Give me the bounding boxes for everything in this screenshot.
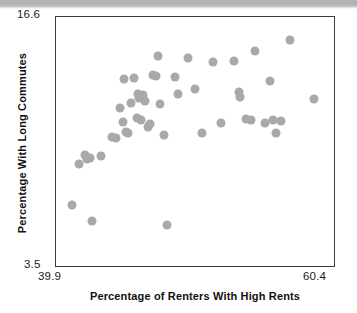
- scatter-point: [209, 58, 218, 67]
- y-axis-title: Percentage With Long Commutes: [16, 13, 28, 273]
- scatter-point: [236, 92, 245, 101]
- scatter-point: [87, 217, 96, 226]
- scatter-point: [310, 95, 319, 104]
- scatter-point: [191, 84, 200, 93]
- scatter-point: [124, 128, 133, 137]
- scatter-point: [170, 73, 179, 82]
- scatter-point: [129, 74, 138, 83]
- scatter-point: [198, 128, 207, 137]
- scatter-point: [155, 100, 164, 109]
- scatter-point: [140, 97, 149, 106]
- scatter-point: [162, 220, 171, 229]
- scatter-point: [112, 133, 121, 142]
- y-axis-title-wrapper: Percentage With Long Commutes: [16, 13, 34, 273]
- scatter-point: [217, 119, 226, 128]
- scatter-point: [229, 57, 238, 66]
- top-banner-shadow: [0, 7, 357, 9]
- scatter-point: [266, 77, 275, 86]
- top-banner-strip: [0, 0, 357, 7]
- plot-area-frame: [55, 16, 335, 267]
- scatter-point: [68, 200, 77, 209]
- scatter-point: [271, 128, 280, 137]
- scatter-point: [86, 153, 95, 162]
- scatter-point: [146, 120, 155, 129]
- scatter-point: [184, 54, 193, 63]
- scatter-point: [151, 72, 160, 81]
- scatter-point: [285, 35, 294, 44]
- scatter-point: [97, 151, 106, 160]
- x-axis-min-label: 39.9: [38, 270, 61, 282]
- scatter-point: [118, 118, 127, 127]
- scatter-point: [159, 130, 168, 139]
- scatter-point: [120, 75, 129, 84]
- scatter-point: [116, 104, 125, 113]
- x-axis-max-label: 60.4: [303, 270, 326, 282]
- scatter-point: [154, 52, 163, 61]
- x-axis-title: Percentage of Renters With High Rents: [55, 290, 335, 302]
- chart-screenshot: 16.6 3.5 39.9 60.4 Percentage of Renters…: [0, 0, 357, 313]
- scatter-point: [173, 89, 182, 98]
- scatter-point: [247, 115, 256, 124]
- scatter-point: [251, 46, 260, 55]
- scatter-points-layer: [56, 17, 334, 266]
- scatter-point: [277, 117, 286, 126]
